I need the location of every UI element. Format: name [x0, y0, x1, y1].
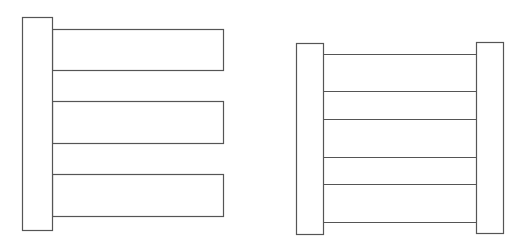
comb-bar-2 [53, 102, 224, 144]
diagram-canvas [0, 0, 523, 249]
ladder-left-post [297, 44, 324, 235]
comb-post [23, 18, 53, 231]
ladder-figure [297, 43, 504, 235]
comb-bar-3 [53, 175, 224, 217]
comb-figure [23, 18, 224, 231]
comb-bar-1 [53, 30, 224, 71]
ladder-right-post [477, 43, 504, 234]
